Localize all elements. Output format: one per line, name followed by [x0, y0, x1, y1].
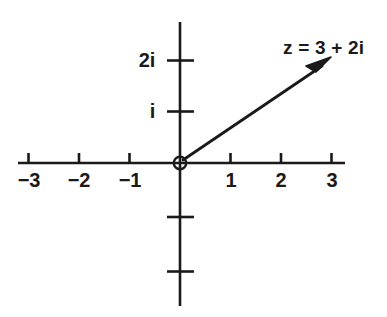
x-tick-label-2: 2 [276, 170, 287, 190]
x-tick-label-minus3: −3 [18, 170, 40, 190]
vector-shaft [183, 66, 322, 160]
x-tick-label-minus1: −1 [119, 170, 141, 190]
vector-arrowhead [306, 57, 331, 72]
y-tick-label-i: i [123, 101, 155, 121]
x-tick-label-1: 1 [226, 170, 237, 190]
x-tick-label-minus2: −2 [68, 170, 90, 190]
y-tick-label-2i: 2i [123, 50, 155, 70]
argand-diagram-figure: −3 −2 −1 1 2 3 2i i z = 3 + 2i [0, 0, 387, 317]
x-tick-label-3: 3 [327, 170, 338, 190]
vector-label-z: z = 3 + 2i [283, 38, 364, 57]
